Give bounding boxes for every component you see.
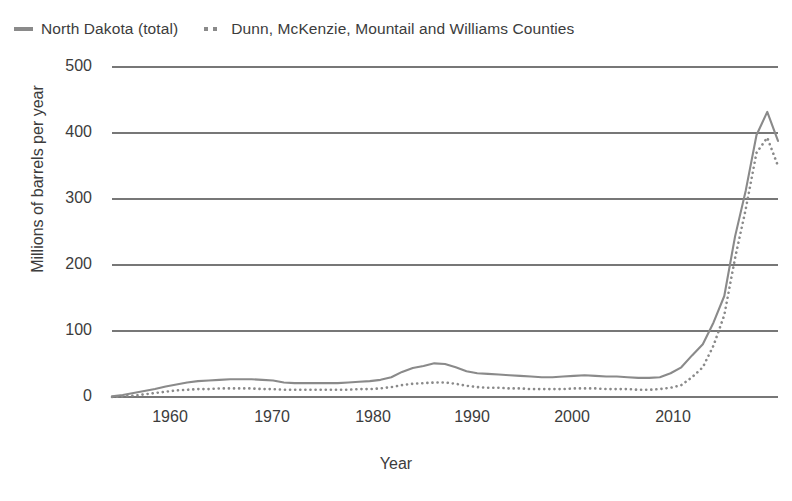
y-axis-title: Millions of barrels per year bbox=[29, 49, 47, 309]
series-line-north-dakota-total bbox=[112, 112, 778, 396]
x-tick-label: 1960 bbox=[135, 408, 205, 426]
x-tick-label: 2010 bbox=[638, 408, 708, 426]
y-tick-label: 0 bbox=[30, 387, 92, 405]
x-axis-title: Year bbox=[0, 455, 792, 473]
data-series-group bbox=[112, 112, 778, 397]
x-tick-label: 1990 bbox=[437, 408, 507, 426]
x-tick-label: 1980 bbox=[338, 408, 408, 426]
x-tick-label: 2000 bbox=[537, 408, 607, 426]
plot-area: 500 400 300 200 100 0 1960 1970 1980 199… bbox=[0, 0, 792, 501]
x-tick-label: 1970 bbox=[237, 408, 307, 426]
series-line-counties bbox=[112, 138, 778, 397]
gridlines bbox=[112, 67, 778, 397]
chart-figure: North Dakota (total) Dunn, McKenzie, Mou… bbox=[0, 0, 792, 501]
y-tick-label: 100 bbox=[30, 321, 92, 339]
